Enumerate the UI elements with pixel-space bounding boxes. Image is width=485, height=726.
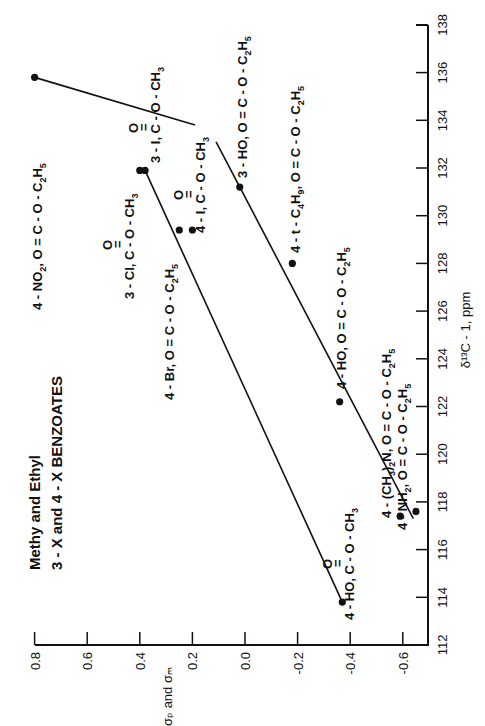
y-tick-label: 0.2 xyxy=(185,652,200,670)
label-4-ho-ethyl: 4 - HO, O = C - O - C2H5 xyxy=(334,247,352,389)
label-4-no2: 4 - NO2, O = C - O - C2H5 xyxy=(30,163,48,310)
data-point xyxy=(236,183,243,190)
x-tick-label: 116 xyxy=(435,539,450,560)
x-axis-delta: 1121141161181201221241261281301321341361… xyxy=(416,14,450,655)
chart-subtitle: 3 - X and 4 - X BENZOATES xyxy=(48,376,65,570)
y-tick-label: -0.4 xyxy=(343,652,358,674)
label-3-cl: 3 - Cl, C - O - CH3 xyxy=(122,194,140,299)
x-tick-label: 138 xyxy=(435,14,450,36)
x-tick-label: 128 xyxy=(435,253,450,275)
x-tick-label: 132 xyxy=(435,157,450,179)
data-points xyxy=(31,74,420,606)
x-tick-label: 118 xyxy=(435,492,450,513)
data-point xyxy=(412,508,419,515)
data-point xyxy=(31,74,38,81)
chart-title: Methy and Ethyl xyxy=(26,455,43,570)
label-4-ho-methyl: 4 - HO, C - O - CH3 xyxy=(342,508,360,620)
y-tick-label: -0.2 xyxy=(291,652,306,674)
fit-line xyxy=(35,77,195,125)
y-tick-label: 0.0 xyxy=(238,652,253,670)
data-point xyxy=(176,226,183,233)
x-tick-label: 122 xyxy=(435,396,450,418)
y-tick-label: 0.4 xyxy=(133,652,148,670)
y-tick-label: 0.6 xyxy=(80,652,95,670)
x-axis-title: δ¹³C - 1, ppm xyxy=(458,292,473,369)
y-axis-sigma: 0.80.60.40.20.0-0.2-0.4-0.6 xyxy=(28,632,429,674)
x-tick-label: 136 xyxy=(435,62,450,84)
x-tick-label: 112 xyxy=(435,635,450,656)
x-tick-label: 120 xyxy=(435,443,450,465)
chart: 0.80.60.40.20.0-0.2-0.4-0.6 112114116118… xyxy=(0,0,485,726)
label-4-tbu: 4 - t - C4H9, O = C - O - C2H5 xyxy=(288,86,306,253)
y-axis-title: σₚ and σₘ xyxy=(160,667,175,726)
point-labels: 4 - NO2, O = C - O - C2H5 O = 3 - I, C -… xyxy=(30,36,413,620)
y-tick-label: 0.8 xyxy=(28,652,43,670)
x-tick-label: 126 xyxy=(435,300,450,322)
data-point xyxy=(141,167,148,174)
x-tick-label: 134 xyxy=(435,109,450,131)
label-4-br: 4 - Br, O = C - O - C2H5 xyxy=(162,264,180,400)
label-3-ho: 3 - HO, O = C - O - C2H5 xyxy=(235,36,253,178)
x-tick-label: 130 xyxy=(435,205,450,227)
data-point xyxy=(336,398,343,405)
x-tick-label: 114 xyxy=(435,587,450,608)
label-4-nh2: 4 - NH2, O = C - O - C2H5 xyxy=(395,384,413,530)
label-4-i: 4 - I, C - O - CH3 xyxy=(193,137,211,233)
data-point xyxy=(289,260,296,267)
x-tick-label: 124 xyxy=(435,348,450,370)
y-tick-label: -0.6 xyxy=(396,652,411,674)
